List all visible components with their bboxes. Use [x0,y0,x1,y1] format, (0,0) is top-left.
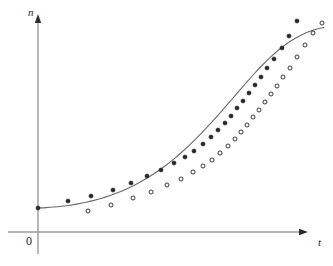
data-point-open [149,190,153,194]
x-axis-label: t [318,236,321,248]
data-point-open [191,170,195,174]
data-point-filled [216,128,220,132]
data-point-filled [280,46,284,50]
y-axis-label: n [28,6,34,18]
data-point-filled [172,161,176,165]
data-point-open [201,164,205,168]
data-point-filled [287,34,291,38]
data-point-open [239,130,243,134]
data-point-filled [247,91,251,95]
axes-group [8,14,308,254]
open-data-markers [86,21,324,213]
data-point-filled [66,199,70,203]
data-point-open [288,66,292,70]
data-point-filled [209,135,213,139]
data-point-filled [89,194,93,198]
data-point-open [251,115,255,119]
data-point-filled [295,19,299,23]
data-point-open [233,137,237,141]
data-point-open [269,92,273,96]
data-point-open [281,75,285,79]
data-point-filled [253,83,257,87]
data-point-open [303,43,307,47]
data-point-filled [111,188,115,192]
plot-canvas [0,0,333,266]
data-point-open [320,21,324,25]
data-point-filled [129,181,133,185]
data-point-open [131,196,135,200]
data-point-filled [36,206,40,210]
origin-label: 0 [26,234,32,249]
data-point-filled [235,106,239,110]
x-axis-arrowhead [299,229,308,235]
data-point-open [226,144,230,148]
data-point-open [295,55,299,59]
data-point-open [263,100,267,104]
data-point-open [109,203,113,207]
data-point-filled [192,149,196,153]
data-point-open [179,177,183,181]
data-point-open [245,123,249,127]
filled-data-markers [36,19,299,210]
data-point-filled [259,75,263,79]
data-point-filled [201,142,205,146]
data-point-filled [229,114,233,118]
data-point-filled [223,121,227,125]
data-point-open [210,158,214,162]
data-point-open [218,151,222,155]
data-point-filled [145,174,149,178]
data-point-filled [159,168,163,172]
data-point-filled [241,99,245,103]
logistic-growth-figure: n t 0 [0,0,333,266]
data-point-open [257,108,261,112]
data-point-filled [265,66,269,70]
data-point-filled [183,155,187,159]
data-point-open [165,183,169,187]
data-point-open [86,209,90,213]
data-point-open [311,31,315,35]
data-point-filled [272,57,276,61]
data-point-open [275,84,279,88]
y-axis-arrowhead [35,14,41,23]
